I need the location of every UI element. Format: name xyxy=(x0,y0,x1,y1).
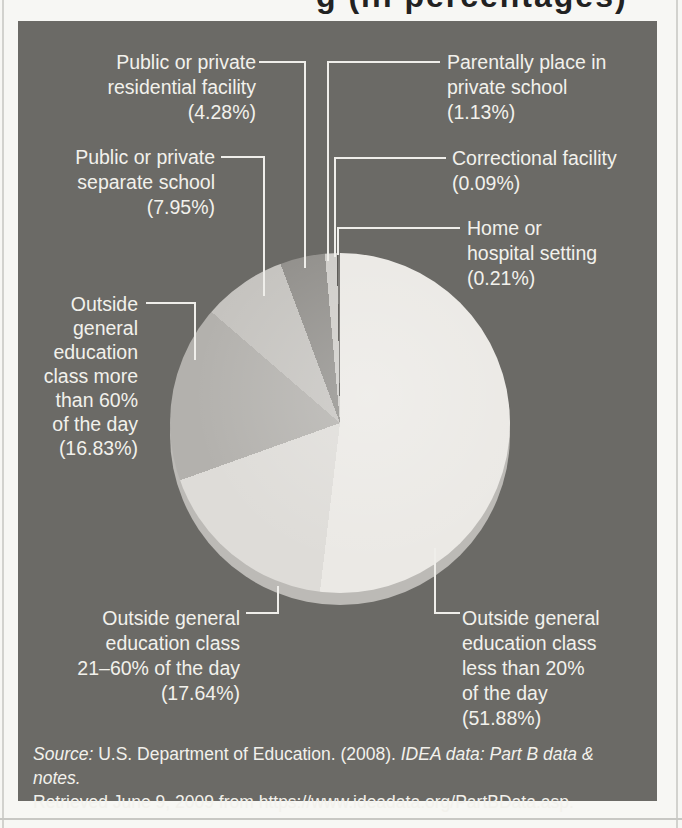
leader-parentally-h xyxy=(327,61,440,63)
leader-less20-h xyxy=(434,612,460,614)
leader-separate-h xyxy=(221,156,265,158)
source-note: Source: U.S. Department of Education. (2… xyxy=(33,742,645,814)
leader-home-v xyxy=(337,227,339,255)
page-edge-line-left xyxy=(2,0,4,828)
leader-2160-v xyxy=(277,586,279,614)
clipped-figure-title: g (in percentages) xyxy=(316,0,628,12)
leader-correctional-h xyxy=(334,157,446,159)
leader-2160-h xyxy=(246,612,278,614)
leader-separate-v xyxy=(263,156,265,296)
leader-less20-v xyxy=(434,548,436,614)
leader-more60-v xyxy=(194,302,196,360)
callout-separate-school: Public or privateseparate school(7.95%) xyxy=(55,145,215,220)
source-label: Source: xyxy=(33,744,93,764)
callout-more-than-60: Outsidegeneraleducationclass morethan 60… xyxy=(28,292,138,460)
callout-residential-facility: Public or privateresidential facility(4.… xyxy=(96,50,256,125)
leader-correctional-v xyxy=(334,157,336,257)
leader-more60-h xyxy=(146,302,196,304)
leader-residential-h xyxy=(259,61,305,63)
leader-parentally-v xyxy=(327,61,329,261)
page-edge-line-right xyxy=(676,0,678,828)
page-edge-line-bottom xyxy=(0,818,682,820)
pie-chart xyxy=(170,253,510,593)
callout-parentally-placed: Parentally place inprivate school(1.13%) xyxy=(447,50,637,125)
source-citation: U.S. Department of Education. (2008). xyxy=(93,744,400,764)
leader-residential-v xyxy=(304,61,306,268)
leader-home-h xyxy=(337,227,460,229)
source-retrieved: Retrieved June 9, 2009 from https://www.… xyxy=(33,792,574,812)
callout-less-than-20: Outside generaleducation classless than … xyxy=(462,606,642,731)
callout-home-hospital: Home orhospital setting(0.21%) xyxy=(467,216,637,291)
callout-21-60: Outside generaleducation class21–60% of … xyxy=(60,606,240,706)
callout-correctional-facility: Correctional facility(0.09%) xyxy=(452,146,652,196)
